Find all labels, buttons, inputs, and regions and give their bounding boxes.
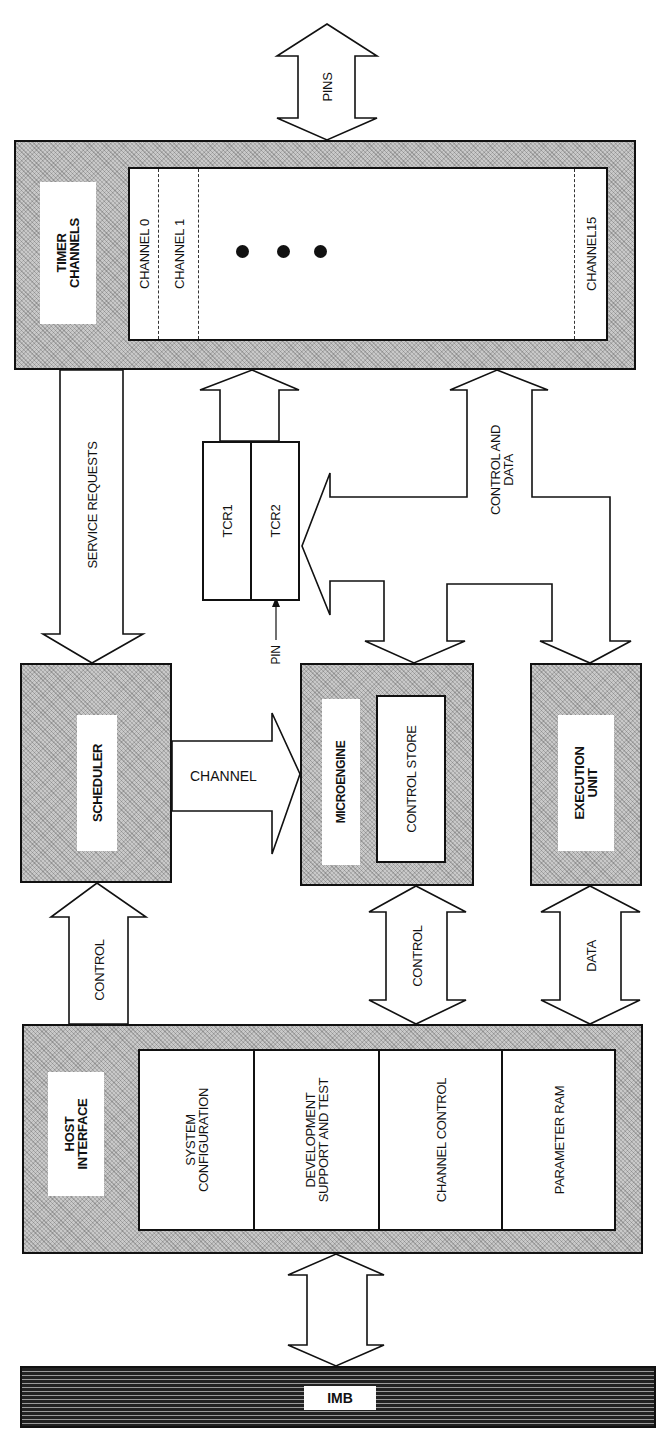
execution-unit-label: EXECUTION UNIT	[573, 746, 599, 819]
host-interface-label: HOST INTERFACE	[63, 1099, 89, 1170]
timer-channels-label: TIMER CHANNELS	[55, 218, 81, 288]
channel-arrow-label: CHANNEL	[190, 768, 257, 784]
pins-label-wrap: PINS	[298, 56, 355, 118]
microengine-label: MICROENGINE	[335, 741, 348, 824]
control-store-block: CONTROL STORE	[376, 695, 446, 863]
imb-label-pad: IMB	[304, 1386, 376, 1410]
channel-control-section: CHANNEL CONTROL	[380, 1051, 501, 1229]
control-scheduler-label-wrap: CONTROL	[69, 925, 128, 1015]
channels-panel: CHANNEL 0 CHANNEL 1 CHANNEL15	[128, 167, 608, 341]
timer-channels-block: TIMER CHANNELS CHANNEL 0 CHANNEL 1 CHANN…	[14, 140, 636, 370]
ellipsis-dot	[236, 245, 249, 258]
system-configuration-section: SYSTEM CONFIGURATION	[140, 1051, 253, 1229]
service-requests-label-wrap: SERVICE REQUESTS	[60, 380, 123, 630]
control-scheduler-label: CONTROL	[92, 939, 105, 1000]
tcr1-register: TCR1	[204, 443, 250, 599]
parameter-ram-section: PARAMETER RAM	[503, 1051, 614, 1229]
data-execution-label: DATA	[584, 940, 597, 972]
tcr-block: TCR1 TCR2	[202, 441, 300, 601]
channel-15: CHANNEL15	[575, 169, 606, 339]
microengine-label-pad: MICROENGINE	[322, 699, 360, 865]
development-support-section: DEVELOPMENT SUPPORT AND TEST	[255, 1051, 378, 1229]
control-microengine-label-wrap: CONTROL	[386, 912, 447, 1000]
pins-label: PINS	[320, 72, 333, 101]
execution-unit-label-pad: EXECUTION UNIT	[558, 715, 614, 851]
host-sections-panel: SYSTEM CONFIGURATION DEVELOPMENT SUPPORT…	[138, 1049, 616, 1231]
execution-unit-block: EXECUTION UNIT	[530, 663, 642, 886]
scheduler-label-pad: SCHEDULER	[77, 715, 117, 851]
control-and-data-arrow	[302, 370, 631, 663]
channel-1: CHANNEL 1	[159, 169, 199, 339]
tcr2-register: TCR2	[252, 443, 298, 599]
scheduler-label: SCHEDULER	[91, 744, 104, 822]
imb-label: IMB	[304, 1390, 376, 1406]
control-and-data-label: CONTROL AND DATA	[489, 425, 515, 515]
microengine-block: MICROENGINE CONTROL STORE	[300, 663, 474, 886]
host-interface-block: HOST INTERFACE SYSTEM CONFIGURATION DEVE…	[22, 1024, 643, 1254]
data-execution-label-wrap: DATA	[560, 912, 621, 1000]
control-microengine-label: CONTROL	[410, 925, 423, 986]
ellipsis-dot	[277, 245, 290, 258]
timer-channels-label-pad: TIMER CHANNELS	[40, 182, 96, 324]
host-imb-arrow	[288, 1254, 384, 1366]
ellipsis-dot	[314, 245, 327, 258]
control-and-data-label-wrap: CONTROL AND DATA	[472, 400, 532, 540]
scheduler-block: SCHEDULER	[20, 663, 172, 883]
pin-label-wrap: PIN	[266, 640, 286, 670]
host-interface-label-pad: HOST INTERFACE	[48, 1072, 104, 1196]
imb-bus: IMB	[20, 1366, 656, 1428]
tcr-to-channels-arrow	[200, 370, 299, 441]
pin-label: PIN	[270, 645, 283, 664]
control-store-label: CONTROL STORE	[405, 725, 418, 832]
channel-0: CHANNEL 0	[130, 169, 158, 339]
service-requests-label: SERVICE REQUESTS	[85, 441, 98, 568]
